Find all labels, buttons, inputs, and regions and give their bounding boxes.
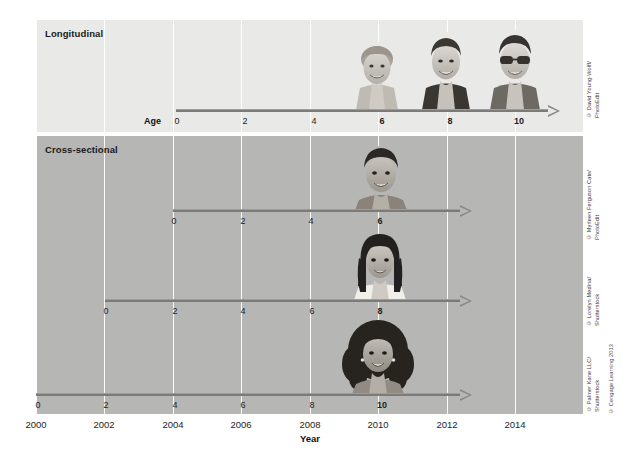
credit-lorelyn-medina: © Lorelyn Medina/ Shutterstock xyxy=(586,246,601,326)
photo-boy-age-8 xyxy=(420,32,472,110)
tick-long-4: 4 xyxy=(311,116,316,126)
panel-title-cross-sectional: Cross-sectional xyxy=(45,144,118,155)
year-label-2008: 2008 xyxy=(299,419,320,430)
year-label-2000: 2000 xyxy=(25,419,46,430)
arrowhead-longitudinal-inner xyxy=(548,107,557,115)
tick-c10-4: 4 xyxy=(172,400,177,410)
year-label-2010: 2010 xyxy=(367,419,388,430)
year-label-2004: 2004 xyxy=(162,419,183,430)
tick-long-10: 10 xyxy=(514,116,524,126)
gridline-2000 xyxy=(36,20,37,414)
photo-child-age-8 xyxy=(350,234,410,300)
photo-boy-age-6 xyxy=(352,42,402,110)
timeline-cross-6 xyxy=(173,209,463,212)
gridline-panel-right-edge xyxy=(583,20,584,414)
year-label-2012: 2012 xyxy=(436,419,457,430)
photo-child-age-6 xyxy=(353,146,409,210)
axis-caption-age: Age xyxy=(144,116,161,126)
year-label-2014: 2014 xyxy=(504,419,525,430)
arrowhead-cross-8-inner xyxy=(460,297,469,305)
tick-c6-4: 4 xyxy=(308,216,313,226)
photo-boy-age-10 xyxy=(488,30,542,110)
figure-longitudinal-vs-cross-sectional: Longitudinal Cross-sectional Age 0 2 4 6… xyxy=(0,0,629,460)
credit-palmer-kane: © Palmer Kane LLC/ Shutterstock xyxy=(586,330,601,412)
tick-long-8: 8 xyxy=(447,116,452,126)
tick-c6-0: 0 xyxy=(171,216,176,226)
arrowhead-cross-6-inner xyxy=(460,207,469,215)
timeline-longitudinal xyxy=(176,109,551,112)
tick-c10-0: 0 xyxy=(35,400,40,410)
year-label-2002: 2002 xyxy=(93,419,114,430)
tick-c6-2: 2 xyxy=(240,216,245,226)
tick-c10-8: 8 xyxy=(309,400,314,410)
tick-c8-6: 6 xyxy=(309,306,314,316)
year-label-2006: 2006 xyxy=(230,419,251,430)
timeline-cross-10 xyxy=(36,393,463,396)
gridline-2002 xyxy=(104,20,105,414)
tick-c10-2: 2 xyxy=(103,400,108,410)
tick-c6-6: 6 xyxy=(377,216,382,226)
timeline-cross-8 xyxy=(105,299,463,302)
tick-c10-10: 10 xyxy=(377,400,387,410)
tick-long-2: 2 xyxy=(242,116,247,126)
axis-title-year: Year xyxy=(300,433,320,444)
tick-c10-6: 6 xyxy=(240,400,245,410)
tick-c8-2: 2 xyxy=(172,306,177,316)
tick-long-0: 0 xyxy=(174,116,179,126)
photo-child-age-10 xyxy=(342,320,414,394)
tick-c8-8: 8 xyxy=(377,306,382,316)
tick-c8-4: 4 xyxy=(240,306,245,316)
credit-myrleen-ferguson-cate: © Myrleen Ferguson Cate/ PhotoEdit xyxy=(586,144,601,240)
tick-long-6: 6 xyxy=(379,116,384,126)
panel-title-longitudinal: Longitudinal xyxy=(45,28,103,39)
credit-cengage-learning: © Cengage Learning 2013 xyxy=(608,330,616,414)
tick-c8-0: 0 xyxy=(103,306,108,316)
credit-david-young-wolff: © David Young-Wolff/ PhotoEdit xyxy=(586,38,601,118)
arrowhead-cross-10-inner xyxy=(460,391,469,399)
